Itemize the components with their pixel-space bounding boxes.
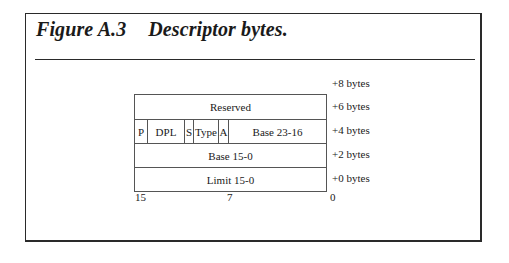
table-row-limit: Limit 15-0 [135,167,326,191]
offset-label-8: +8 bytes [332,77,370,89]
cell-dpl: DPL [147,120,184,143]
offset-label-6: +6 bytes [332,100,370,112]
offset-label-0: +0 bytes [332,172,370,184]
table-row-access: P DPL S Type A Base 23-16 [135,119,326,143]
cell-reserved: Reserved [135,95,326,119]
cell-type: Type [193,120,218,143]
cell-base-23-16: Base 23-16 [228,120,326,143]
cell-p: P [135,120,147,143]
table-row-reserved: Reserved [135,95,326,119]
bit-label-15: 15 [135,191,146,203]
cell-base-15-0: Base 15-0 [135,144,326,167]
figure-title: Figure A.3Descriptor bytes. [36,18,288,41]
table-row-base: Base 15-0 [135,143,326,167]
bit-label-0: 0 [330,191,336,203]
figure-caption: Descriptor bytes. [148,18,287,40]
bit-label-7: 7 [227,191,233,203]
cell-limit-15-0: Limit 15-0 [135,168,326,191]
cell-s: S [184,120,193,143]
offset-label-4: +4 bytes [332,124,370,136]
title-divider [35,59,475,60]
cell-a: A [218,120,228,143]
figure-number: Figure A.3 [36,18,126,40]
offset-label-2: +2 bytes [332,148,370,160]
descriptor-table: Reserved P DPL S Type A Base 23-16 Base … [134,94,327,192]
